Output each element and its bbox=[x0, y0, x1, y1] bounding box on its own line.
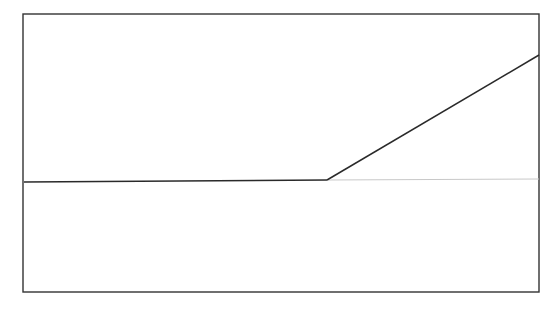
diagram-frame bbox=[23, 14, 539, 292]
faint-baseline-continuation bbox=[327, 179, 539, 180]
diagram-canvas bbox=[0, 0, 558, 310]
horizontal-baseline bbox=[24, 180, 327, 182]
rising-slope-line bbox=[327, 55, 539, 180]
